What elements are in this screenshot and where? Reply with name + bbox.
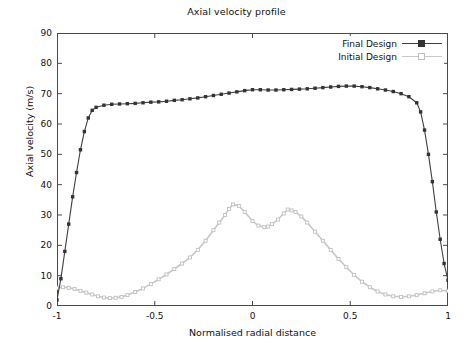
data-point (204, 239, 207, 242)
data-point (407, 295, 410, 298)
chart-title: Axial velocity profile (0, 6, 473, 17)
data-point (392, 295, 395, 298)
legend-swatch-final-design (402, 38, 442, 49)
data-point (263, 226, 266, 229)
y-tick-label: 60 (6, 119, 52, 129)
data-point (423, 128, 426, 131)
data-point (337, 257, 340, 260)
data-point (237, 204, 240, 207)
data-point (257, 224, 260, 227)
data-point (353, 274, 356, 277)
data-point (126, 294, 129, 297)
data-point (266, 88, 269, 91)
y-tick-label: 0 (6, 301, 52, 311)
data-point (329, 85, 332, 88)
data-point (345, 266, 348, 269)
data-point (57, 298, 59, 301)
data-point (400, 295, 403, 298)
x-tick-label: 1 (423, 311, 473, 321)
data-point (91, 293, 94, 296)
y-tick-label: 80 (6, 58, 52, 68)
data-point (79, 289, 82, 292)
y-tick-label: 30 (6, 210, 52, 220)
data-point (224, 214, 227, 217)
data-point (423, 292, 426, 295)
data-point (110, 103, 113, 106)
data-point (157, 100, 160, 103)
data-point (243, 89, 246, 92)
data-point (329, 248, 332, 251)
data-point (67, 286, 70, 289)
legend-marker-initial-design (418, 53, 425, 60)
data-point (165, 100, 168, 103)
data-point (314, 230, 317, 233)
y-axis-tick-labels: 0102030405060708090 (0, 0, 52, 349)
x-tick-label: 0.5 (325, 311, 375, 321)
data-point (376, 290, 379, 293)
data-point (352, 84, 355, 87)
y-tick-label: 70 (6, 89, 52, 99)
data-point (120, 295, 123, 298)
data-point (157, 278, 160, 281)
data-point (274, 88, 277, 91)
data-point (180, 98, 183, 101)
data-point (173, 99, 176, 102)
legend-item-final-design[interactable]: Final Design (320, 37, 442, 50)
y-tick-label: 20 (6, 240, 52, 250)
data-point (321, 239, 324, 242)
data-point (271, 223, 274, 226)
data-point (204, 95, 207, 98)
data-point (439, 289, 442, 292)
data-point (290, 209, 293, 212)
data-point (85, 291, 88, 294)
data-point (134, 291, 137, 294)
series-initial-design (57, 203, 448, 300)
legend-marker-final-design (418, 40, 425, 47)
data-point (313, 87, 316, 90)
x-tick-label: -0.5 (130, 311, 180, 321)
data-point (368, 86, 371, 89)
data-point (196, 248, 199, 251)
data-point (431, 180, 434, 183)
data-point (67, 222, 70, 225)
data-point (419, 110, 422, 113)
data-point (188, 256, 191, 259)
data-point (286, 208, 289, 211)
data-point (63, 250, 66, 253)
data-point (282, 88, 285, 91)
data-point (118, 102, 121, 105)
data-point (360, 280, 363, 283)
data-point (442, 262, 445, 265)
data-point (94, 106, 97, 109)
data-point (407, 95, 410, 98)
data-point (126, 102, 129, 105)
data-point (73, 288, 76, 291)
data-point (57, 286, 59, 289)
data-point (59, 277, 62, 280)
y-tick-label: 40 (6, 180, 52, 190)
data-point (300, 215, 303, 218)
data-point (306, 87, 309, 90)
legend-swatch-initial-design (402, 51, 442, 62)
y-tick-label: 50 (6, 149, 52, 159)
data-point (102, 103, 105, 106)
data-point (231, 203, 234, 206)
data-point (134, 102, 137, 105)
x-axis-label: Normalised radial distance (57, 327, 448, 338)
data-point (142, 287, 145, 290)
data-point (368, 286, 371, 289)
data-point (392, 90, 395, 93)
data-point (447, 289, 449, 292)
legend-item-initial-design[interactable]: Initial Design (320, 50, 442, 63)
plot-canvas (57, 33, 448, 306)
chart-legend: Final Design Initial Design (318, 36, 444, 65)
data-point (251, 220, 254, 223)
data-point (218, 221, 221, 224)
data-point (399, 92, 402, 95)
data-point (306, 221, 309, 224)
data-point (114, 296, 117, 299)
data-point (282, 212, 285, 215)
data-point (61, 286, 64, 289)
data-point (427, 153, 430, 156)
data-point (384, 293, 387, 296)
